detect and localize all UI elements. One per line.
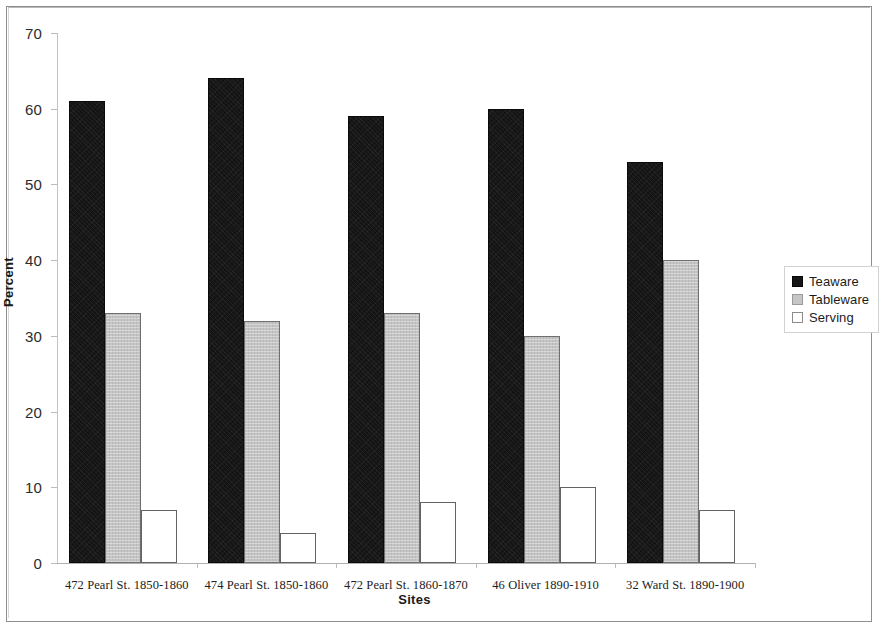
x-axis-tick [755, 563, 756, 568]
y-axis-tick-label: 70 [25, 25, 42, 42]
x-axis-title: Sites [0, 592, 883, 607]
bar-teaware-3 [488, 109, 524, 563]
legend-item-label: Teaware [809, 274, 859, 289]
y-axis-tick: 70 [51, 33, 57, 34]
x-axis-category-label: 472 Pearl St. 1860-1870 [344, 578, 468, 593]
x-axis-category-label: 46 Oliver 1890-1910 [492, 578, 599, 593]
y-axis-tick: 20 [51, 412, 57, 413]
gray-square-icon [792, 294, 803, 305]
y-axis-tick: 30 [51, 336, 57, 337]
x-axis-line [57, 563, 756, 564]
bar-teaware-2 [348, 116, 384, 563]
x-axis-tick [476, 563, 477, 568]
y-axis-tick: 0 [51, 563, 57, 564]
x-axis-tick [336, 563, 337, 568]
y-axis-tick-label: 40 [25, 252, 42, 269]
y-axis-tick-label: 0 [33, 555, 42, 572]
white-square-icon [792, 312, 803, 323]
y-axis-tick-label: 10 [25, 479, 42, 496]
bar-tableware-3 [524, 336, 560, 563]
bar-tableware-4 [663, 260, 699, 563]
bar-tableware-2 [384, 313, 420, 563]
y-axis-tick-label: 20 [25, 403, 42, 420]
y-axis-tick: 60 [51, 109, 57, 110]
legend-item-tableware: Tableware [792, 290, 869, 308]
x-axis-category-label: 472 Pearl St. 1850-1860 [65, 578, 189, 593]
y-axis-tick-label: 50 [25, 176, 42, 193]
chart-legend: TeawareTablewareServing [784, 266, 879, 333]
bar-teaware-0 [69, 101, 105, 563]
bar-serving-2 [420, 502, 456, 563]
x-axis-category-label: 474 Pearl St. 1850-1860 [204, 578, 328, 593]
x-axis-category-label: 32 Ward St. 1890-1900 [626, 578, 744, 593]
black-square-icon [792, 276, 803, 287]
legend-item-label: Serving [809, 310, 854, 325]
bar-serving-4 [699, 510, 735, 563]
x-axis-tick [615, 563, 616, 568]
x-axis-tick [197, 563, 198, 568]
y-axis-tick: 50 [51, 184, 57, 185]
bar-serving-3 [560, 487, 596, 563]
legend-item-teaware: Teaware [792, 272, 869, 290]
bar-serving-0 [141, 510, 177, 563]
bar-tableware-0 [105, 313, 141, 563]
bar-serving-1 [280, 533, 316, 563]
bar-teaware-1 [208, 78, 244, 563]
y-axis-title: Percent [1, 257, 16, 307]
legend-item-serving: Serving [792, 308, 869, 326]
y-axis-line [57, 33, 58, 564]
x-axis-title-text: Sites [398, 592, 431, 607]
y-axis-tick-label: 60 [25, 100, 42, 117]
y-axis-tick: 40 [51, 260, 57, 261]
bar-tableware-1 [244, 321, 280, 563]
plot-area: 010203040506070 472 Pearl St. 1850-18604… [57, 33, 755, 563]
bar-teaware-4 [627, 162, 663, 563]
legend-item-label: Tableware [809, 292, 869, 307]
y-axis-tick-label: 30 [25, 327, 42, 344]
y-axis-tick: 10 [51, 487, 57, 488]
chart-page: Percent 010203040506070 472 Pearl St. 18… [0, 0, 883, 633]
